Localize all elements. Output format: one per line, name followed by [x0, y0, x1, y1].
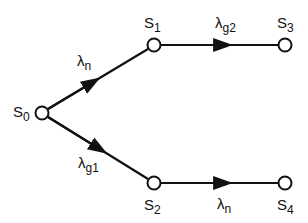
arrow-icon	[48, 83, 92, 109]
node-label-s4: S4	[277, 196, 294, 217]
node-s0	[36, 107, 49, 120]
node-label-s0: S0	[13, 103, 30, 124]
edge-label-s1-s3: λg2	[215, 14, 236, 35]
edge-label-s2-s4: λn	[217, 195, 231, 216]
arrow-icon	[48, 117, 99, 149]
node-label-s2: S2	[144, 196, 161, 217]
edge-s0-s1	[48, 49, 148, 109]
node-label-s3: S3	[277, 14, 294, 35]
node-s4	[279, 177, 292, 190]
node-label-s1: S1	[144, 14, 161, 35]
edge-label-s0-s1: λn	[77, 52, 91, 73]
node-s3	[279, 39, 292, 52]
edge-label-s0-s2: λg1	[78, 154, 99, 175]
node-s2	[148, 177, 161, 190]
state-diagram: S0 S1 S2 S3 S4 λn λg1 λg2 λn	[0, 0, 308, 223]
node-s1	[148, 39, 161, 52]
